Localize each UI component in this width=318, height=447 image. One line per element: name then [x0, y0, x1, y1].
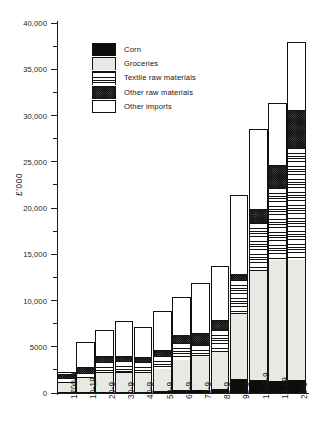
legend-label: Groceries [124, 59, 158, 68]
bar-segment [116, 321, 133, 356]
legend-label: Textile raw materials [124, 73, 196, 82]
bar-90-9 [230, 195, 249, 393]
legend-swatch [92, 71, 116, 84]
bar-segment [173, 343, 190, 360]
y-tick-label: 15,000 [23, 250, 47, 259]
bar-segment [192, 345, 209, 355]
y-tick-label: 40,000 [23, 19, 47, 28]
legend-swatch [92, 57, 116, 70]
bar-10-19 [268, 103, 287, 393]
legend-swatch [92, 100, 116, 113]
bar-segment [154, 311, 171, 350]
bar-segment [269, 165, 286, 188]
legend-item: Other imports [92, 100, 212, 114]
bar-segment [77, 342, 94, 367]
bar-segment [154, 350, 171, 356]
bar-60-9 [172, 297, 191, 393]
bar-segment [288, 110, 305, 147]
bar-segment [212, 266, 229, 320]
bar-segment [231, 274, 248, 280]
bar-50-9 [153, 311, 172, 393]
bar-20-9 [287, 42, 306, 394]
legend-item: Corn [92, 42, 212, 56]
x-tick-label: 10-19 [281, 377, 290, 399]
bar-80-9 [211, 266, 230, 393]
bar-segment [250, 270, 267, 380]
bar-1800-9 [249, 129, 268, 393]
legend-item: Other raw materials [92, 85, 212, 99]
bar-segment [135, 327, 152, 357]
bar-segment [116, 356, 133, 361]
y-axis-title: £'000 [14, 173, 24, 196]
bar-segment [269, 260, 286, 381]
x-tick-label: 40-9 [146, 382, 155, 399]
bar-segment [96, 362, 113, 373]
x-tick-label: 50-9 [166, 382, 175, 399]
bar-segment [231, 280, 248, 313]
y-tick-label: 0 [43, 389, 47, 398]
y-tick-label: 25,000 [23, 157, 47, 166]
bar-segment [250, 209, 267, 223]
x-tick-label: 1800-9 [262, 372, 271, 399]
bar-segment [173, 297, 190, 335]
bar-segment [96, 356, 113, 361]
chart-legend: CornGroceriesTextile raw materialsOther … [92, 42, 212, 114]
legend-swatch [92, 86, 116, 99]
x-tick-label: 60-9 [185, 382, 194, 399]
y-tick-label: 35,000 [23, 65, 47, 74]
bar-segment [212, 320, 229, 330]
x-tick-label: 70-9 [204, 382, 213, 399]
x-tick-label: 90-9 [242, 382, 251, 399]
bar-segment [250, 129, 267, 209]
bar-segment [288, 42, 305, 111]
x-tick-label: 20-9 [108, 382, 117, 399]
y-tick-label: 20,000 [23, 204, 47, 213]
bar-segment [212, 330, 229, 352]
bar-segment [269, 188, 286, 260]
bar-segment [192, 283, 209, 333]
x-tick-label: 30-9 [127, 382, 136, 399]
bar-segment [96, 330, 113, 357]
bar-segment [116, 361, 133, 372]
legend-swatch [92, 43, 116, 56]
x-tick-label: 1700-9 [70, 372, 79, 399]
bar-segment [135, 357, 152, 362]
bar-segment [154, 356, 171, 368]
legend-item: Groceries [92, 56, 212, 70]
x-tick-label: 20-9 [300, 382, 309, 399]
legend-label: Other raw materials [124, 88, 193, 97]
bar-70-9 [191, 283, 210, 393]
legend-label: Other imports [124, 102, 172, 111]
bar-segment [135, 362, 152, 373]
y-tick-label: 5000 [30, 342, 47, 351]
bar-segment [192, 333, 209, 345]
bar-segment [288, 148, 305, 260]
y-tick-label: 30,000 [23, 111, 47, 120]
bar-segment [250, 223, 267, 270]
bar-segment [269, 103, 286, 166]
legend-item: Textile raw materials [92, 71, 212, 85]
chart-figure: £'000 0500010,00015,00020,00025,00030,00… [0, 0, 318, 447]
legend-label: Corn [124, 45, 141, 54]
bar-segment [288, 260, 305, 380]
bar-segment [77, 367, 94, 373]
x-tick-label: 10-19 [89, 377, 98, 399]
bar-segment [173, 335, 190, 343]
bar-segment [231, 313, 248, 379]
bar-segment [231, 195, 248, 274]
y-tick-label: 10,000 [23, 296, 47, 305]
x-tick-label: 80-9 [223, 382, 232, 399]
